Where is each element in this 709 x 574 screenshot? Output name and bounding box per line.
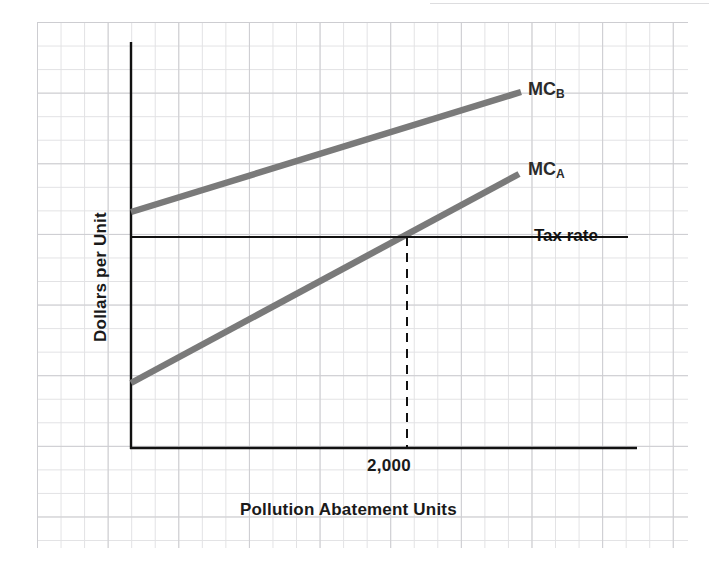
series-label-mc-a-base: MC xyxy=(528,159,556,179)
series-line-mc-b xyxy=(131,92,521,212)
series-label-mc-a: MCA xyxy=(528,159,565,180)
x-axis-label: Pollution Abatement Units xyxy=(240,500,457,520)
series-line-mc-a xyxy=(131,174,519,383)
y-axis-label: Dollars per Unit xyxy=(91,167,111,387)
series-label-mc-a-subscript: A xyxy=(556,167,565,181)
series-label-mc-b-base: MC xyxy=(528,79,556,99)
series-label-mc-b-subscript: B xyxy=(556,87,565,101)
x-axis-tick-2000: 2,000 xyxy=(367,456,411,476)
pollution-abatement-chart-figure: Dollars per Unit Pollution Abatement Uni… xyxy=(0,0,709,574)
series-label-mc-b: MCB xyxy=(528,79,565,100)
series-label-tax-rate: Tax rate xyxy=(534,226,598,246)
